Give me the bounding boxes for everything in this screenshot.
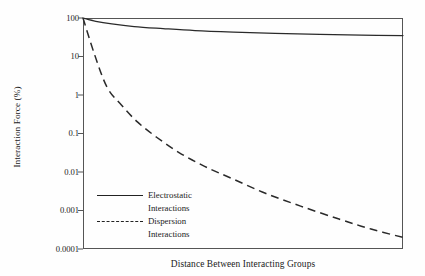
- legend-label-dispersion-line1: Dispersion: [148, 215, 190, 228]
- chart-legend: Electrostatic Interactions Dispersion In…: [97, 189, 247, 241]
- x-axis-title: Distance Between Interacting Groups: [83, 259, 403, 269]
- legend-label-electrostatic: Electrostatic Interactions: [148, 189, 192, 214]
- legend-line-sample-dashed-icon: [97, 221, 143, 224]
- series-line-electrostatic: [83, 18, 403, 36]
- legend-label-dispersion: Dispersion Interactions: [148, 215, 190, 240]
- legend-label-electrostatic-line2: Interactions: [148, 202, 192, 215]
- y-axis-tick-marks: [78, 18, 83, 249]
- legend-label-dispersion-line2: Interactions: [148, 228, 190, 241]
- chart-figure: 100 10 1 0.1 0.01 0.001 0.0001 Interacti…: [0, 0, 425, 276]
- legend-entry-dispersion: Dispersion Interactions: [97, 215, 247, 241]
- legend-entry-electrostatic: Electrostatic Interactions: [97, 189, 247, 215]
- legend-label-electrostatic-line1: Electrostatic: [148, 189, 192, 202]
- legend-line-sample-solid-icon: [97, 195, 143, 198]
